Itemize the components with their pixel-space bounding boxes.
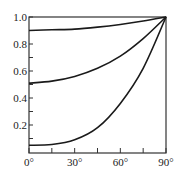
- curve-upper: [29, 17, 166, 31]
- x-tick-label: 90°: [158, 156, 173, 168]
- y-axis-labels: 0.20.40.60.81.0: [13, 11, 27, 131]
- y-tick-label: 0.4: [13, 92, 27, 104]
- line-chart: 0°30°60°90° 0.20.40.60.81.0: [0, 0, 178, 175]
- y-tick-label: 0.6: [13, 65, 27, 77]
- x-tick-label: 60°: [113, 156, 128, 168]
- y-tick-label: 0.2: [13, 119, 27, 131]
- y-tick-label: 1.0: [13, 11, 27, 23]
- x-tick-label: 30°: [67, 156, 82, 168]
- x-tick-label: 0°: [24, 156, 34, 168]
- y-tick-label: 0.8: [13, 38, 27, 50]
- x-axis-labels: 0°30°60°90°: [24, 156, 174, 168]
- data-series: [29, 17, 166, 145]
